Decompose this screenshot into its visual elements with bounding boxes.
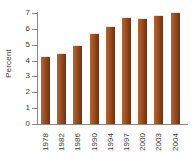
y-axis-tick-label: 3 [18,72,30,80]
y-axis-tick-label: 4 [18,57,30,65]
x-axis-tick-label: 2003 [154,126,164,156]
x-axis-tick-label-text: 2003 [155,130,163,154]
y-axis-tick [32,61,37,62]
bar [73,45,82,124]
bar [122,17,131,124]
x-axis-tick-label: 1990 [90,126,100,156]
x-axis-tick-label: 1997 [122,126,132,156]
bar [171,12,180,124]
y-axis-tick [32,92,37,93]
y-axis-tick [32,29,37,30]
y-axis-title: Percent [0,0,16,126]
x-axis-tick-label: 1978 [41,126,51,156]
bar [106,26,115,124]
y-axis-tick [32,45,37,46]
x-axis-tick-label-text: 1994 [107,130,115,154]
y-axis-tick [32,108,37,109]
bar-chart: Percent 01234567 19781982198619901994199… [0,0,194,158]
y-axis-tick-label: 0 [18,120,30,128]
x-axis-tick-label-text: 1986 [74,130,82,154]
x-axis-tick-label: 1994 [106,126,116,156]
bar [90,33,99,124]
x-axis-tick-label-text: 2000 [139,130,147,154]
y-axis-tick-label: 5 [18,41,30,49]
y-axis-tick-label: 2 [18,88,30,96]
x-axis-tick-label: 2004 [171,126,181,156]
y-axis-tick [32,124,37,125]
bar [41,56,50,124]
bar [154,15,163,124]
x-axis-tick-label: 1982 [57,126,67,156]
x-axis-tick-label-text: 1997 [123,130,131,154]
y-axis-title-text: Percent [4,49,13,78]
x-axis-tick-label: 1986 [73,126,83,156]
y-axis-tick-label: 1 [18,104,30,112]
x-axis-tick-label: 2000 [138,126,148,156]
bar [138,18,147,124]
y-axis-tick [32,13,37,14]
y-axis-tick [32,76,37,77]
bar [57,53,66,124]
y-axis-tick-labels: 01234567 [16,0,30,158]
y-axis-tick-label: 6 [18,25,30,33]
x-axis-tick-label-text: 2004 [172,130,180,154]
bar-series [38,8,188,124]
x-axis-line [32,124,188,125]
y-axis-tick-label: 7 [18,9,30,17]
x-axis-tick-labels: 197819821986199019941997200020032004 [38,126,188,158]
x-axis-tick-label-text: 1978 [42,130,50,154]
x-axis-tick-label-text: 1982 [58,130,66,154]
x-axis-tick-label-text: 1990 [91,130,99,154]
